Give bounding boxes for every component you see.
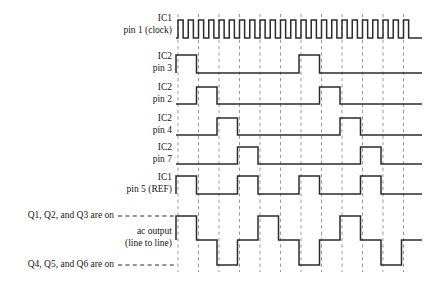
label-ic1-pin1-clock-line1: IC1 (158, 13, 173, 23)
label-ic2-pin4-line2: pin 4 (153, 125, 173, 135)
label-ic2-pin7-line2: pin 7 (153, 154, 173, 164)
label-ic2-pin2-line2: pin 2 (153, 94, 173, 104)
label-ic1-pin5-ref-line1: IC1 (158, 172, 173, 182)
timing-diagram-canvas: IC1pin 1 (clock)IC2pin 3IC2pin 2IC2pin 4… (0, 0, 438, 283)
label-ic2-pin3-line1: IC2 (158, 51, 173, 61)
label-ic2-pin7-line1: IC2 (158, 142, 173, 152)
label-ic2-pin4-line1: IC2 (158, 113, 173, 123)
timing-diagram: IC1pin 1 (clock)IC2pin 3IC2pin 2IC2pin 4… (0, 0, 438, 283)
annotation-text-upper-on-note: Q1, Q2, and Q3 are on (28, 210, 115, 220)
label-ic1-pin5-ref-line2: pin 5 (REF) (127, 184, 172, 195)
label-ac-output-line2: (line to line) (125, 238, 172, 249)
annotation-text-lower-on-note: Q4, Q5, and Q6 are on (28, 259, 115, 269)
label-ic1-pin1-clock-line2: pin 1 (clock) (123, 25, 172, 36)
label-ic2-pin2-line1: IC2 (158, 82, 173, 92)
label-ic2-pin3-line2: pin 3 (153, 63, 173, 73)
label-ac-output-line1: ac output (137, 226, 172, 236)
